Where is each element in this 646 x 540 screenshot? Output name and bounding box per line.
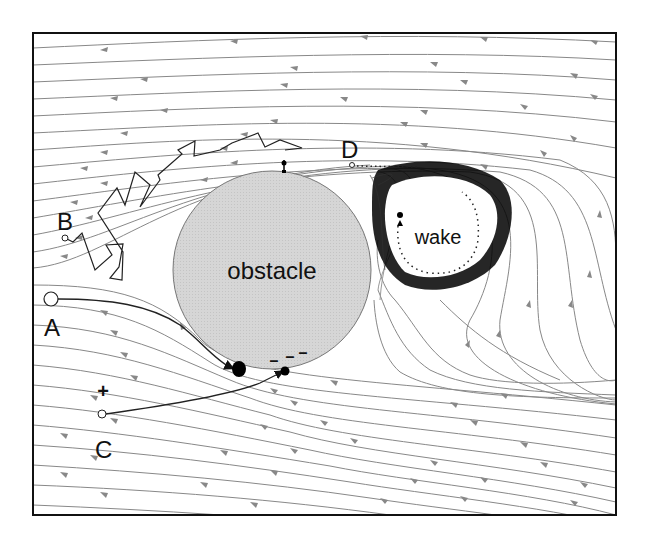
minus-charge-1: –	[270, 352, 279, 369]
obstacle: obstacle	[173, 171, 371, 369]
wake-particle	[397, 212, 403, 218]
label-a: A	[44, 314, 60, 341]
particle-c-deposit	[281, 367, 290, 376]
label-c: C	[95, 436, 112, 463]
plus-charge: +	[97, 380, 109, 402]
label-d: D	[341, 136, 358, 163]
label-b: B	[57, 208, 73, 235]
flow-diagram: obstacle wake A B C + – – – D	[0, 0, 646, 540]
minus-charge-3: –	[299, 344, 308, 361]
obstacle-label: obstacle	[227, 257, 316, 284]
minus-charge-2: –	[286, 348, 295, 365]
wake-label: wake	[414, 226, 462, 248]
point-a-marker	[44, 292, 58, 306]
particle-a-deposit	[232, 361, 246, 377]
